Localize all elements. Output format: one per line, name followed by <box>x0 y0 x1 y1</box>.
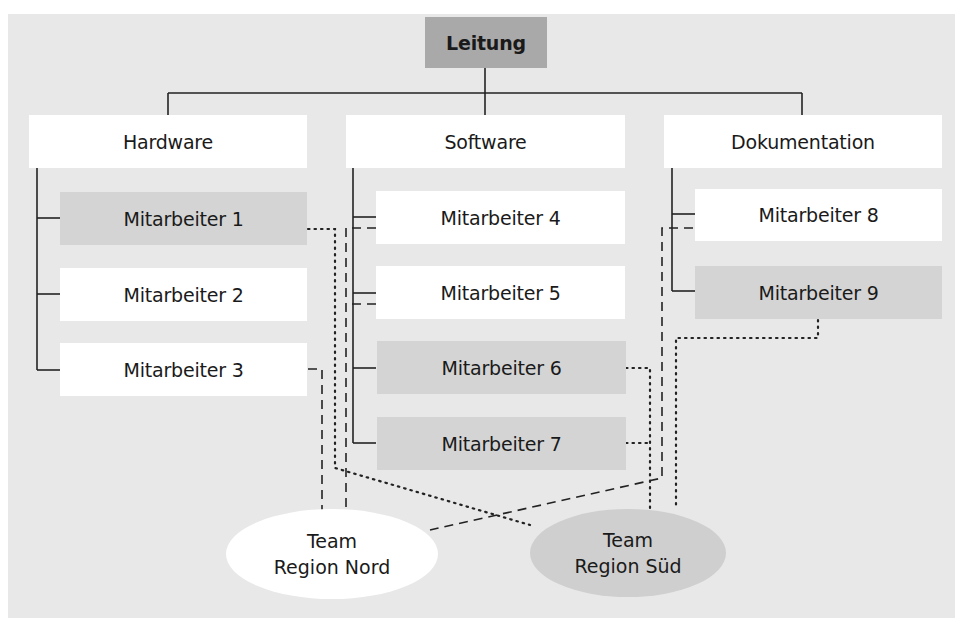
team-region-nord[interactable]: Team Region Nord <box>226 509 438 599</box>
employee-label: Mitarbeiter 9 <box>758 282 878 304</box>
root-label: Leitung <box>446 32 526 54</box>
employee-mitarbeiter-5[interactable]: Mitarbeiter 5 <box>376 266 625 319</box>
employee-label: Mitarbeiter 5 <box>440 282 560 304</box>
employee-label: Mitarbeiter 4 <box>440 207 560 229</box>
employee-label: Mitarbeiter 7 <box>441 433 561 455</box>
employee-mitarbeiter-9[interactable]: Mitarbeiter 9 <box>695 266 942 319</box>
department-dokumentation[interactable]: Dokumentation <box>664 115 942 168</box>
team-label-line2: Region Süd <box>574 553 681 579</box>
team-region-sued[interactable]: Team Region Süd <box>530 509 726 597</box>
team-label-line2: Region Nord <box>274 554 390 580</box>
team-label-line1: Team <box>307 528 357 554</box>
employee-mitarbeiter-1[interactable]: Mitarbeiter 1 <box>60 192 307 245</box>
team-label-line1: Team <box>603 527 653 553</box>
employee-mitarbeiter-8[interactable]: Mitarbeiter 8 <box>695 189 942 241</box>
department-label: Dokumentation <box>731 131 875 153</box>
employee-label: Mitarbeiter 1 <box>123 208 243 230</box>
employee-mitarbeiter-7[interactable]: Mitarbeiter 7 <box>377 417 626 470</box>
employee-mitarbeiter-4[interactable]: Mitarbeiter 4 <box>376 191 625 244</box>
department-label: Software <box>444 131 526 153</box>
employee-label: Mitarbeiter 6 <box>441 357 561 379</box>
department-hardware[interactable]: Hardware <box>29 115 307 168</box>
employee-label: Mitarbeiter 2 <box>123 284 243 306</box>
department-software[interactable]: Software <box>346 115 625 168</box>
employee-mitarbeiter-3[interactable]: Mitarbeiter 3 <box>60 343 307 396</box>
employee-label: Mitarbeiter 3 <box>123 359 243 381</box>
employee-mitarbeiter-2[interactable]: Mitarbeiter 2 <box>60 268 307 321</box>
department-label: Hardware <box>123 131 213 153</box>
employee-label: Mitarbeiter 8 <box>758 204 878 226</box>
root-node-leitung[interactable]: Leitung <box>425 17 547 68</box>
employee-mitarbeiter-6[interactable]: Mitarbeiter 6 <box>377 341 626 394</box>
